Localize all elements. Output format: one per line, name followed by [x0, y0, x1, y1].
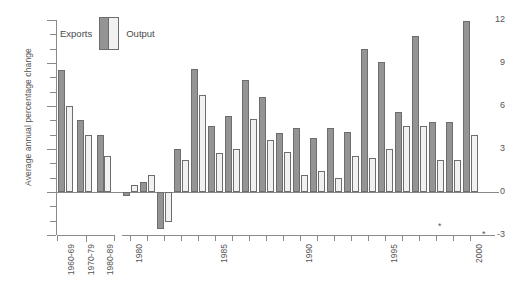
y-axis-minor-tick — [50, 120, 56, 121]
x-axis-tick — [232, 235, 233, 241]
forecast-note: * — [438, 221, 445, 231]
bar-exports — [140, 182, 147, 192]
bar-output — [199, 95, 206, 192]
x-axis-tick — [351, 235, 352, 241]
bar-exports — [157, 192, 164, 229]
decade-tick-label: 1960-69 — [66, 244, 76, 275]
bar-exports — [123, 192, 130, 196]
x-axis-tick — [402, 235, 403, 241]
bar-exports — [412, 36, 419, 192]
x-axis-tick-label: 1995 — [389, 244, 399, 263]
x-axis-tick-label: 1980 — [134, 244, 144, 263]
x-axis-tick — [317, 235, 318, 241]
x-axis-tick — [470, 235, 471, 241]
bar-exports — [276, 133, 283, 192]
x-axis-tick — [368, 235, 369, 241]
x-axis-tick — [436, 235, 437, 241]
x-axis-tick — [266, 235, 267, 241]
x-axis-decades — [57, 235, 115, 241]
y-axis-major-tick — [47, 235, 56, 236]
x-axis-tick — [198, 235, 199, 241]
bar-output — [454, 160, 461, 192]
bar-output — [284, 152, 291, 192]
bar-output — [267, 140, 274, 192]
x-axis-tick — [130, 235, 131, 241]
bar-output — [66, 106, 73, 192]
y-axis-major-tick — [47, 63, 56, 64]
bar-exports — [208, 126, 215, 192]
y-axis-minor-tick — [50, 77, 56, 78]
x-axis-tick — [249, 235, 250, 241]
y-axis-major-tick — [47, 106, 56, 107]
x-axis-tick — [334, 235, 335, 241]
y-axis-major-tick — [47, 20, 56, 21]
bar-exports — [361, 49, 368, 192]
bar-output — [250, 119, 257, 192]
chart-root: Average annual percentage change -303691… — [0, 0, 505, 300]
x-axis-tick — [215, 235, 216, 241]
bar-exports — [77, 120, 84, 192]
decade-tick-label: 1980-89 — [105, 244, 115, 275]
x-axis-tick — [453, 235, 454, 241]
bar-exports — [446, 122, 453, 192]
bar-output — [403, 126, 410, 192]
bar-output — [182, 160, 189, 192]
y-axis-minor-tick — [50, 221, 56, 222]
x-axis-tick — [300, 235, 301, 241]
y-axis-minor-tick — [50, 206, 56, 207]
y-axis-major-tick — [47, 192, 56, 193]
forecast-axis-star-icon: * — [482, 229, 486, 239]
decade-tick-label: 1970-79 — [86, 244, 96, 275]
forecast-star-icon: * — [438, 221, 441, 231]
bar-exports — [429, 122, 436, 192]
bar-output — [301, 175, 308, 192]
y-axis-minor-tick — [50, 92, 56, 93]
bar-output — [420, 126, 427, 192]
x-axis-tick-label: 1985 — [219, 244, 229, 263]
bar-exports — [378, 62, 385, 192]
x-axis-tick — [283, 235, 284, 241]
bar-exports — [242, 80, 249, 192]
bar-output — [437, 160, 444, 192]
bar-output — [148, 175, 155, 192]
bar-exports — [463, 21, 470, 192]
bar-exports — [327, 128, 334, 193]
bar-output — [85, 135, 92, 192]
decade-mid-tick — [86, 236, 87, 242]
bar-exports — [97, 135, 104, 192]
y-axis-title: Average annual percentage change — [23, 0, 33, 237]
plot-area — [57, 20, 499, 235]
x-axis-tick — [147, 235, 148, 241]
bar-output — [335, 178, 342, 192]
x-axis-tick — [419, 235, 420, 241]
bar-exports — [259, 97, 266, 192]
bar-output — [386, 149, 393, 192]
bar-exports — [395, 112, 402, 192]
x-axis-tick — [164, 235, 165, 241]
bar-output — [318, 171, 325, 193]
x-axis-tick-label: 1990 — [304, 244, 314, 263]
x-axis-tick-label: 2000 — [474, 244, 484, 263]
bar-exports — [191, 69, 198, 192]
y-axis-minor-tick — [50, 163, 56, 164]
bar-output — [216, 153, 223, 192]
y-axis-minor-tick — [50, 34, 56, 35]
y-axis-minor-tick — [50, 135, 56, 136]
bar-exports — [225, 116, 232, 192]
bar-output — [369, 158, 376, 192]
x-axis-years — [122, 235, 495, 236]
x-axis-tick — [181, 235, 182, 241]
bar-exports — [310, 138, 317, 192]
bar-exports — [344, 132, 351, 192]
bar-exports — [174, 149, 181, 192]
bar-output — [233, 149, 240, 192]
bar-output — [104, 156, 111, 192]
bar-output — [471, 135, 478, 192]
bar-exports — [293, 128, 300, 193]
bar-output — [131, 185, 138, 192]
y-axis-major-tick — [47, 149, 56, 150]
bar-output — [352, 156, 359, 192]
y-axis-minor-tick — [50, 178, 56, 179]
x-axis-tick — [385, 235, 386, 241]
bar-exports — [58, 70, 65, 192]
